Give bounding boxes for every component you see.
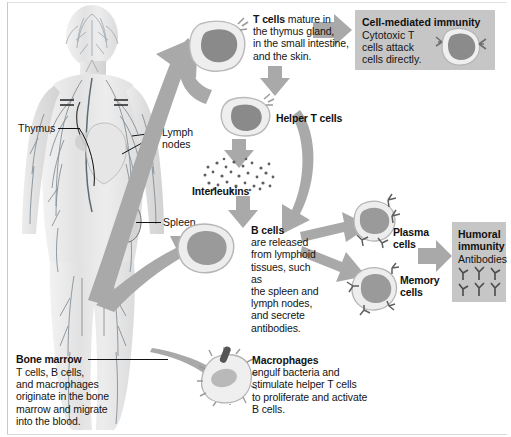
humoral-immunity-body: Antibodies	[458, 253, 507, 265]
helper-t-cell	[218, 94, 274, 140]
b-cells-caption: B cells are released from lymphoid tissu…	[251, 224, 323, 334]
bone-marrow-leader-line	[88, 359, 168, 360]
humoral-immunity-box: Humoral immunity Antibodies	[452, 222, 506, 302]
b-cell	[176, 222, 238, 276]
antibody-icons	[457, 267, 503, 299]
cytotoxic-t-cell-icon	[434, 24, 490, 68]
t-cells-title: T cells	[253, 13, 285, 25]
memory-cells-label: Memory cells	[400, 274, 439, 299]
macrophage	[196, 348, 258, 406]
humoral-immunity-title: Humoral immunity	[458, 228, 505, 253]
macrophages-title: Macrophages	[252, 354, 319, 366]
cell-mediated-immunity-body: Cytotoxic T cells attack cells directly.	[362, 29, 421, 66]
interleukins-label: Interleukins	[192, 185, 249, 197]
plasma-cells-label: Plasma cells	[393, 226, 429, 251]
macrophages-caption: Macrophages engulf bacteria and stimulat…	[252, 354, 402, 415]
bone-marrow-body: T cells, B cells, and macrophages origin…	[16, 366, 136, 427]
helper-t-cells-label: Helper T cells	[276, 112, 342, 124]
t-cell	[186, 18, 248, 74]
immune-system-diagram: Thymus Lymph nodes Spleen	[0, 0, 511, 437]
t-cells-caption: T cells mature in the thymus gland, in t…	[253, 13, 349, 62]
macrophages-body: engulf bacteria and stimulate helper T c…	[252, 366, 367, 415]
b-cells-body: are released from lymphoid tissues, such…	[251, 236, 319, 333]
memory-cell	[347, 262, 403, 316]
b-cells-title: B cells	[251, 224, 284, 236]
cell-mediated-immunity-box: Cell-mediated immunity Cytotoxic T cells…	[355, 10, 495, 70]
bone-marrow-title: Bone marrow	[16, 353, 81, 365]
